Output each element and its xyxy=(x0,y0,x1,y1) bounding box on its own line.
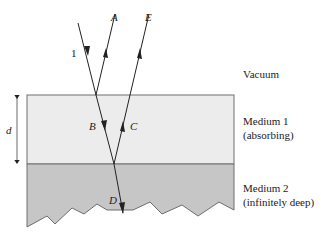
incident-ray-label: 1 xyxy=(71,47,77,59)
medium2-region xyxy=(27,164,234,227)
vacuum-label: Vacuum xyxy=(243,68,279,80)
ray-c-label: C xyxy=(130,120,138,132)
medium1-label: Medium 1 xyxy=(243,115,289,127)
ray-d-label: D xyxy=(108,194,117,206)
incident-ray-1 xyxy=(78,23,96,95)
ray-a-arrow-icon xyxy=(103,48,108,58)
ray-diagram: d 1 A B C E D Vacuum Medium 1 (absorbing… xyxy=(0,0,321,237)
ray-e-label: E xyxy=(144,11,152,23)
thickness-label: d xyxy=(6,124,12,136)
medium2-sublabel: (infinitely deep) xyxy=(243,196,315,209)
ray-b-label: B xyxy=(89,120,96,132)
ray-a-label: A xyxy=(110,11,118,23)
medium2-label: Medium 2 xyxy=(243,182,289,194)
medium1-sublabel: (absorbing) xyxy=(243,129,294,142)
ray-e-arrow-icon xyxy=(137,48,142,59)
